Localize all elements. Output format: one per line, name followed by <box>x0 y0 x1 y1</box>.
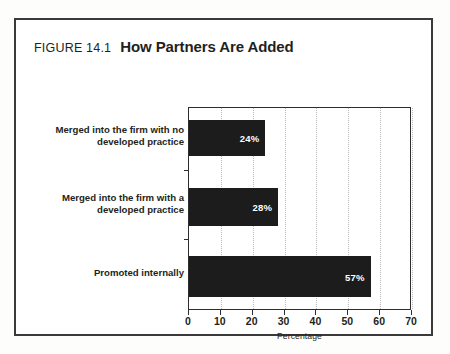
figure-number-label: FIGURE 14.1 <box>34 41 111 55</box>
category-label-line: Promoted internally <box>34 267 184 279</box>
category-label-merged-with-practice: Merged into the firm with a developed pr… <box>34 192 184 215</box>
x-axis-tick-label: 0 <box>185 315 191 327</box>
bar: 28% <box>189 188 278 226</box>
category-tick <box>184 170 189 171</box>
figure-title: How Partners Are Added <box>120 38 293 55</box>
x-axis-tick-label: 60 <box>373 315 385 327</box>
gridline <box>380 108 381 309</box>
bar: 57% <box>189 256 371 297</box>
x-axis-title: Percentage <box>188 331 411 341</box>
category-label-line: Merged into the firm with no <box>34 124 184 136</box>
figure-frame: FIGURE 14.1How Partners Are Added Merged… <box>14 18 433 336</box>
page-background: FIGURE 14.1How Partners Are Added Merged… <box>0 0 450 354</box>
x-axis-tick-label: 50 <box>341 315 353 327</box>
category-label-merged-no-practice: Merged into the firm with no developed p… <box>34 124 184 147</box>
bar-value-label: 28% <box>253 202 273 213</box>
bar-value-label: 57% <box>345 271 365 282</box>
figure-caption: FIGURE 14.1How Partners Are Added <box>34 39 294 55</box>
category-label-line: Merged into the firm with a <box>34 192 184 204</box>
x-axis-tick-label: 20 <box>246 315 258 327</box>
bar-value-label: 24% <box>240 133 260 144</box>
category-label-promoted-internally: Promoted internally <box>34 267 184 279</box>
gridline <box>412 108 413 309</box>
category-label-line: developed practice <box>34 136 184 148</box>
x-axis-tick-label: 70 <box>405 315 417 327</box>
x-axis-tick-label: 40 <box>310 315 322 327</box>
bar: 24% <box>189 120 265 156</box>
category-label-line: developed practice <box>34 204 184 216</box>
category-tick <box>184 239 189 240</box>
chart-plot-area: 24%28%57% <box>188 107 411 310</box>
x-axis-tick-label: 30 <box>278 315 290 327</box>
x-axis-tick-label: 10 <box>214 315 226 327</box>
